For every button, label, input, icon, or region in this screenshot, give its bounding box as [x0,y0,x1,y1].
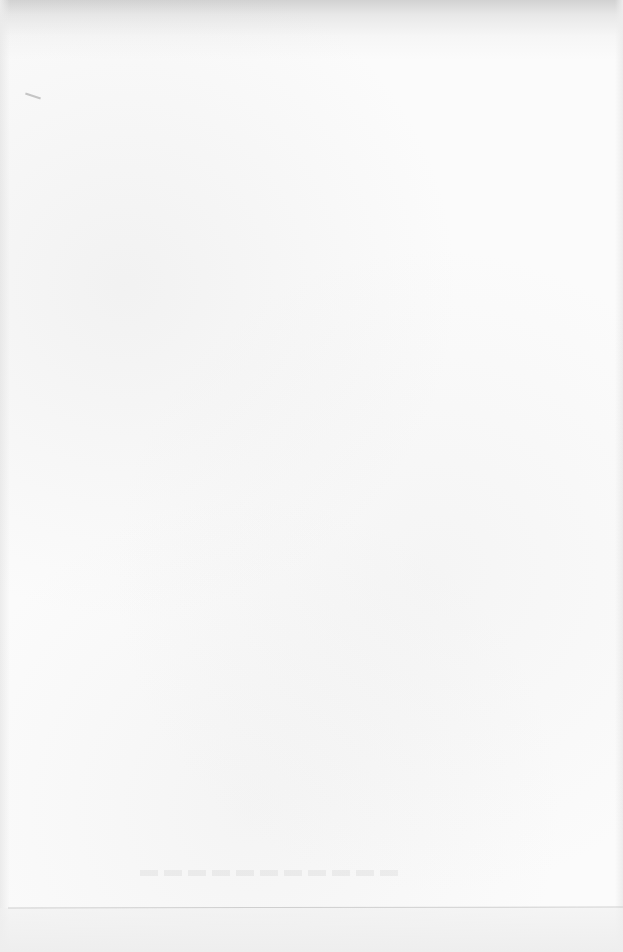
scanned-blank-page [0,0,623,952]
bottom-scan-band [0,908,623,952]
bleed-through-text [140,870,400,876]
page-content [60,80,563,860]
